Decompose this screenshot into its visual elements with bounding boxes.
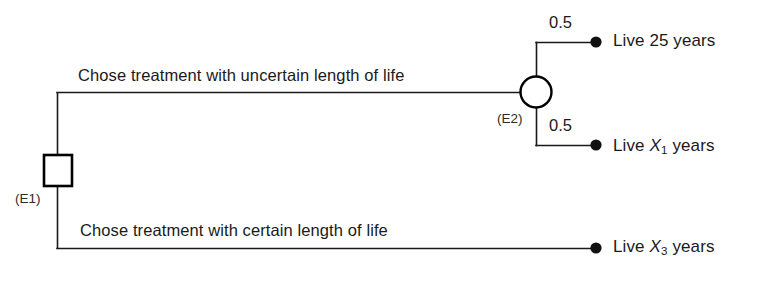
branch-label-uncertain: Chose treatment with uncertain length of…	[78, 67, 404, 84]
terminal-dot-upper	[590, 36, 601, 47]
outcome-middle-subscript: 1	[661, 144, 668, 156]
outcome-label-lower: Live X3 years	[613, 238, 715, 258]
outcome-lower-prefix: Live	[613, 237, 649, 256]
terminal-dot-middle	[590, 139, 601, 150]
terminal-dot-lower	[590, 242, 601, 253]
outcome-middle-suffix: years	[668, 136, 715, 155]
outcome-lower-suffix: years	[668, 237, 715, 256]
decision-node-e1	[44, 155, 72, 186]
outcome-label-upper: Live 25 years	[613, 32, 715, 49]
outcome-middle-variable: X1	[649, 136, 667, 155]
chance-node-e2	[521, 77, 552, 108]
outcome-lower-variable: X3	[649, 237, 667, 256]
decision-tree-diagram: Chose treatment with uncertain length of…	[0, 0, 759, 281]
outcome-middle-prefix: Live	[613, 136, 649, 155]
probability-upper: 0.5	[549, 14, 572, 31]
branch-label-certain: Chose treatment with certain length of l…	[80, 222, 388, 239]
outcome-lower-subscript: 3	[661, 245, 668, 257]
node-label-e2: (E2)	[497, 112, 523, 126]
outcome-lower-variable-letter: X	[649, 237, 660, 256]
outcome-middle-variable-letter: X	[649, 136, 660, 155]
outcome-label-middle: Live X1 years	[613, 137, 715, 157]
probability-lower: 0.5	[549, 117, 572, 134]
outcome-upper-text: Live 25 years	[613, 31, 715, 50]
node-label-e1: (E1)	[15, 192, 41, 206]
